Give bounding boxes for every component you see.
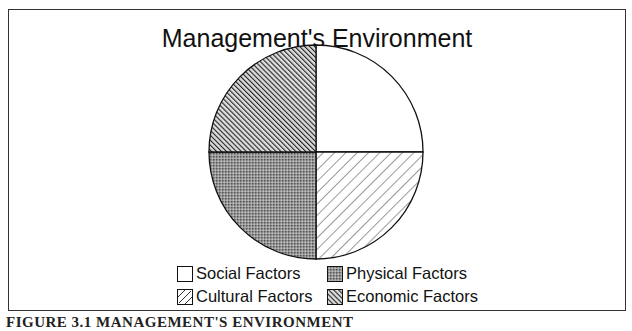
slice-economic	[209, 45, 316, 152]
legend-item-economic: Economic Factors	[327, 287, 478, 306]
swatch-economic-icon	[327, 289, 343, 305]
legend-label: Economic Factors	[346, 287, 478, 306]
figure-caption: FIGURE 3.1 MANAGEMENT'S ENVIRONMENT	[6, 314, 354, 331]
legend-label: Cultural Factors	[196, 287, 312, 306]
legend-label: Social Factors	[196, 264, 301, 283]
legend-item-social: Social Factors	[177, 264, 301, 283]
legend-item-cultural: Cultural Factors	[177, 287, 312, 306]
slice-cultural	[316, 152, 423, 259]
swatch-cultural-icon	[177, 289, 193, 305]
slice-social	[316, 45, 423, 152]
swatch-physical-icon	[327, 266, 343, 282]
legend-item-physical: Physical Factors	[327, 264, 467, 283]
slice-physical	[209, 152, 316, 259]
swatch-social-icon	[177, 266, 193, 282]
legend-label: Physical Factors	[346, 264, 467, 283]
